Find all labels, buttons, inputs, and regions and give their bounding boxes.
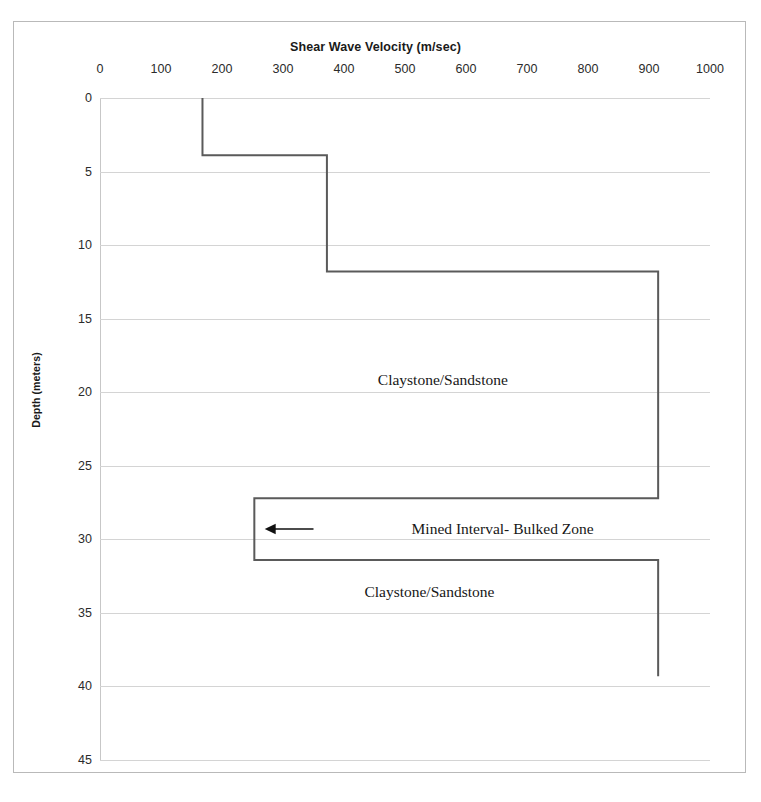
y-tick-label: 0	[52, 91, 92, 105]
y-tick-label: 15	[52, 312, 92, 326]
y-tick-label: 10	[52, 238, 92, 252]
y-tick-label: 25	[52, 459, 92, 473]
shear-wave-velocity-figure: Shear Wave Velocity (m/sec) 010020030040…	[0, 0, 761, 802]
plot-area: Claystone/SandstoneMined Interval- Bulke…	[100, 98, 710, 760]
y-tick-label: 20	[52, 385, 92, 399]
y-tick-label: 35	[52, 606, 92, 620]
annotation-claystone-lower: Claystone/Sandstone	[364, 583, 494, 601]
arrow-head	[265, 524, 276, 534]
y-tick-label: 40	[52, 679, 92, 693]
annotation-claystone-upper: Claystone/Sandstone	[378, 371, 508, 389]
annotation-mined-interval: Mined Interval- Bulked Zone	[412, 520, 594, 538]
gridline	[100, 760, 710, 761]
y-tick-label: 5	[52, 165, 92, 179]
y-tick-label: 45	[52, 753, 92, 767]
y-tick-label: 30	[52, 532, 92, 546]
mined-interval-arrow-icon	[100, 98, 710, 760]
